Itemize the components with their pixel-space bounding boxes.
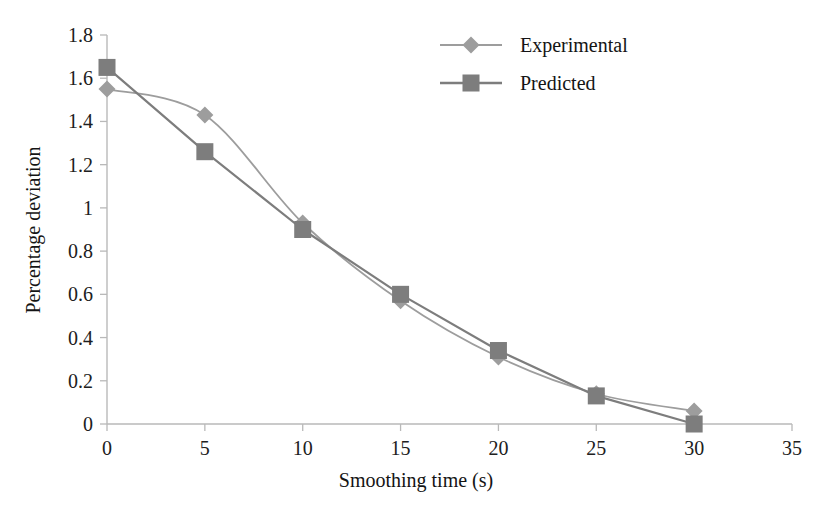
data-point-marker xyxy=(490,342,507,359)
data-series-layer xyxy=(99,59,703,433)
y-tick-label: 0.2 xyxy=(68,370,93,392)
legend-item-label: Experimental xyxy=(520,34,628,57)
series-line xyxy=(107,67,694,424)
data-point-marker xyxy=(99,59,116,76)
y-tick-label: 0 xyxy=(83,413,93,435)
x-tick-label: 25 xyxy=(586,437,606,459)
y-tick-label: 0.6 xyxy=(68,283,93,305)
chart-container: 00.20.40.60.811.21.41.61.8 0510152025303… xyxy=(0,0,833,512)
x-tick-label: 5 xyxy=(200,437,210,459)
y-tick-label: 1.6 xyxy=(68,67,93,89)
y-axis-tick-labels: 00.20.40.60.811.21.41.61.8 xyxy=(68,24,93,435)
data-point-marker xyxy=(196,143,213,160)
legend-marker-swatch xyxy=(463,37,480,54)
line-chart: 00.20.40.60.811.21.41.61.8 0510152025303… xyxy=(0,0,833,512)
data-point-marker xyxy=(392,286,409,303)
x-tick-label: 20 xyxy=(488,437,508,459)
y-tick-label: 1.8 xyxy=(68,24,93,46)
legend-marker-swatch xyxy=(463,75,480,92)
series-line xyxy=(107,89,694,411)
y-tick-label: 1.2 xyxy=(68,154,93,176)
y-tick-label: 0.4 xyxy=(68,327,93,349)
y-tick-label: 0.8 xyxy=(68,240,93,262)
data-point-marker xyxy=(588,387,605,404)
x-tick-label: 35 xyxy=(782,437,802,459)
series-predicted xyxy=(99,59,703,433)
x-tick-label: 0 xyxy=(102,437,112,459)
chart-legend: ExperimentalPredicted xyxy=(440,34,628,94)
y-axis-title: Percentage deviation xyxy=(22,146,45,313)
y-tick-label: 1 xyxy=(83,197,93,219)
data-point-marker xyxy=(294,221,311,238)
legend-item-label: Predicted xyxy=(520,72,596,94)
x-tick-label: 30 xyxy=(684,437,704,459)
x-axis-title: Smoothing time (s) xyxy=(339,469,493,492)
data-point-marker xyxy=(686,416,703,433)
x-axis-tick-labels: 05101520253035 xyxy=(102,437,802,459)
series-experimental xyxy=(99,81,703,420)
x-tick-label: 10 xyxy=(293,437,313,459)
y-tick-label: 1.4 xyxy=(68,110,93,132)
x-tick-label: 15 xyxy=(391,437,411,459)
data-point-marker xyxy=(99,81,116,98)
data-point-marker xyxy=(196,106,213,123)
